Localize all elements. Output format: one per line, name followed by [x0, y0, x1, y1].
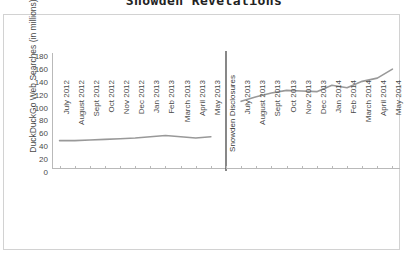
x-axis-tick-label: Dec 2013 — [320, 80, 328, 170]
y-axis-tick-labels: 020406080100120140160180 — [26, 51, 48, 171]
x-axis-tick-label: August 2013 — [259, 80, 267, 170]
x-axis-tick-label: Nov 2012 — [123, 80, 131, 170]
x-axis-tick-mark — [150, 166, 151, 169]
chart-title: Snowden Revelations — [0, 0, 408, 8]
x-axis-tick-label: May 2014 — [395, 80, 403, 170]
x-axis-tick-label: Sept 2012 — [93, 80, 101, 170]
x-axis-tick-label: Dec 2012 — [138, 80, 146, 170]
chart-screenshot: Snowden Revelations DuckDuckGo Web Searc… — [0, 0, 408, 260]
y-axis-tick-label: 40 — [39, 143, 48, 151]
x-axis-tick-mark — [271, 166, 272, 169]
y-axis-tick-label: 140 — [35, 79, 48, 87]
x-axis-tick-label: August 2012 — [78, 80, 86, 170]
y-axis-tick-label: 20 — [39, 156, 48, 164]
x-axis-tick-labels: July 2012August 2012Sept 2012Oct 2012Nov… — [52, 170, 404, 260]
x-axis-tick-mark — [196, 166, 197, 169]
x-axis-tick-mark — [332, 166, 333, 169]
x-axis-tick-label: Oct 2013 — [290, 80, 298, 170]
x-axis-tick-mark — [135, 166, 136, 169]
x-axis-tick-mark — [165, 166, 166, 169]
x-axis-tick-mark — [75, 166, 76, 169]
plot-svg — [52, 53, 400, 169]
x-axis-tick-label: Jan 2014 — [335, 80, 343, 170]
x-axis-event-label: Snowden Disclosures — [229, 75, 237, 170]
plot-area — [52, 53, 400, 169]
x-axis-tick-mark — [90, 166, 91, 169]
x-axis-tick-mark — [226, 166, 227, 169]
x-axis-tick-label: March 2014 — [365, 80, 373, 170]
x-axis-tick-label: Sept 2013 — [274, 80, 282, 170]
x-axis-tick-mark — [120, 166, 121, 169]
x-axis-tick-label: Oct 2012 — [108, 80, 116, 170]
y-axis-tick-label: 160 — [35, 66, 48, 74]
x-axis-tick-label: July 2013 — [244, 80, 252, 170]
x-axis-tick-mark — [302, 166, 303, 169]
x-axis-tick-label: Feb 2013 — [168, 80, 176, 170]
x-axis-tick-label: April 2013 — [199, 80, 207, 170]
y-axis-tick-label: 180 — [35, 53, 48, 61]
x-axis-tick-mark — [392, 166, 393, 169]
x-axis-tick-mark — [287, 166, 288, 169]
x-axis-tick-label: May 2013 — [214, 80, 222, 170]
x-axis-tick-mark — [181, 166, 182, 169]
x-axis-tick-mark — [211, 166, 212, 169]
y-axis-tick-label: 60 — [39, 130, 48, 138]
y-axis-tick-label: 120 — [35, 92, 48, 100]
x-axis-tick-mark — [60, 166, 61, 169]
figure-frame: DuckDuckGo Web Searches (in millions) 02… — [3, 14, 400, 250]
x-axis-tick-mark — [377, 166, 378, 169]
x-axis-tick-mark — [362, 166, 363, 169]
x-axis-tick-mark — [241, 166, 242, 169]
x-axis-tick-mark — [347, 166, 348, 169]
y-axis-tick-label: 80 — [39, 117, 48, 125]
x-axis-tick-label: Feb 2014 — [350, 80, 358, 170]
x-axis-tick-mark — [105, 166, 106, 169]
x-axis-tick-label: Jan 2013 — [153, 80, 161, 170]
y-axis-tick-label: 100 — [35, 105, 48, 113]
x-axis-tick-label: March 2013 — [184, 80, 192, 170]
x-axis-tick-label: July 2012 — [63, 80, 71, 170]
x-axis-tick-mark — [256, 166, 257, 169]
x-axis-tick-label: Nov 2013 — [305, 80, 313, 170]
x-axis-tick-label: April 2014 — [380, 80, 388, 170]
y-axis-tick-label: 0 — [44, 169, 48, 177]
x-axis-tick-mark — [317, 166, 318, 169]
